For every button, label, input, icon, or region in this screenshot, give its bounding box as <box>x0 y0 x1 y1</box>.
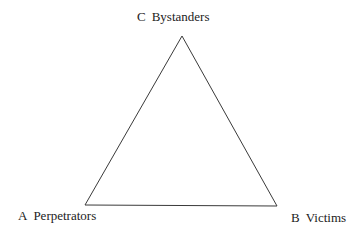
vertex-label-perpetrators: APerpetrators <box>18 209 96 222</box>
vertex-text: Victims <box>306 210 346 225</box>
triangle-shape <box>0 0 363 240</box>
triangle-diagram: CBystanders APerpetrators BVictims <box>0 0 363 240</box>
vertex-label-victims: BVictims <box>291 211 346 224</box>
vertex-letter: B <box>291 210 300 225</box>
vertex-label-bystanders: CBystanders <box>137 10 209 23</box>
vertex-text: Bystanders <box>152 9 210 24</box>
vertex-letter: A <box>18 208 27 223</box>
vertex-text: Perpetrators <box>33 208 96 223</box>
vertex-letter: C <box>137 9 146 24</box>
